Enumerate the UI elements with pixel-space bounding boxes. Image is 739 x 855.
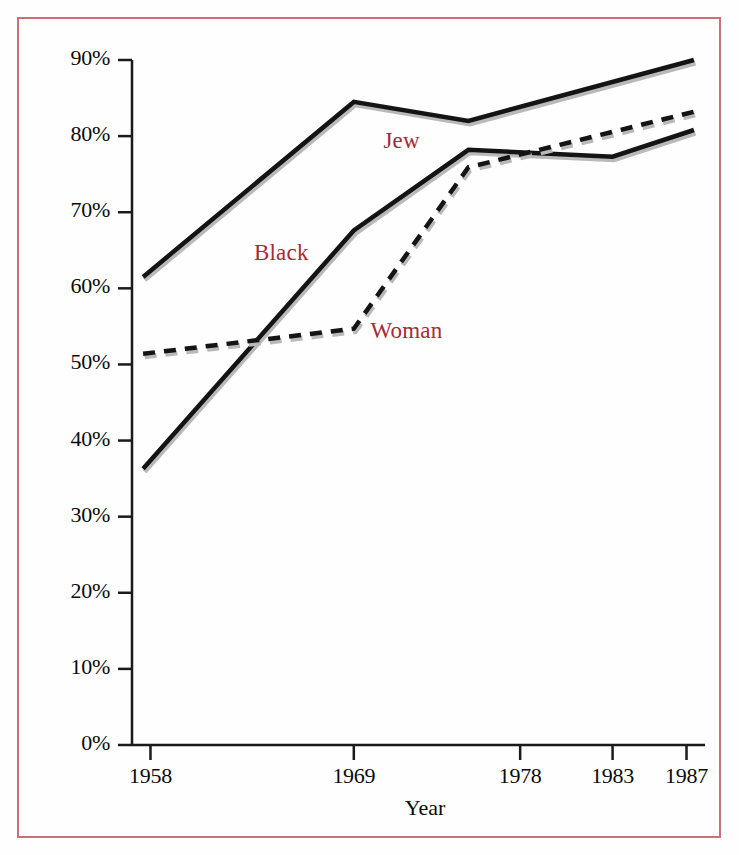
x-tick-label: 1978 bbox=[475, 763, 565, 789]
x-tick-label: 1958 bbox=[105, 763, 195, 789]
y-tick-label: 30% bbox=[38, 502, 110, 528]
x-axis-title: Year bbox=[355, 795, 495, 821]
series-label-jew: Jew bbox=[383, 128, 419, 154]
chart-page: 0%10%20%30%40%50%60%70%80%90% 1958196919… bbox=[0, 0, 739, 855]
y-tick-label: 70% bbox=[38, 197, 110, 223]
axes-group bbox=[132, 60, 705, 745]
data-series-group bbox=[143, 60, 695, 472]
line-chart: 0%10%20%30%40%50%60%70%80%90% 1958196919… bbox=[0, 0, 739, 855]
y-tick-label: 20% bbox=[38, 578, 110, 604]
series-label-black: Black bbox=[254, 240, 309, 266]
y-tick-label: 0% bbox=[38, 730, 110, 756]
y-tick-label: 60% bbox=[38, 273, 110, 299]
x-tick-label: 1969 bbox=[309, 763, 399, 789]
y-tick-label: 50% bbox=[38, 349, 110, 375]
series-label-woman: Woman bbox=[370, 318, 442, 344]
y-tick-label: 90% bbox=[38, 45, 110, 71]
x-tick-marks bbox=[150, 745, 686, 760]
y-tick-label: 80% bbox=[38, 121, 110, 147]
y-tick-label: 10% bbox=[38, 654, 110, 680]
series-shadow-jew bbox=[145, 63, 696, 280]
chart-plot-svg bbox=[0, 0, 739, 855]
y-tick-label: 40% bbox=[38, 426, 110, 452]
series-line-black bbox=[143, 130, 694, 469]
x-tick-label: 1987 bbox=[642, 763, 732, 789]
y-tick-marks bbox=[118, 60, 132, 745]
